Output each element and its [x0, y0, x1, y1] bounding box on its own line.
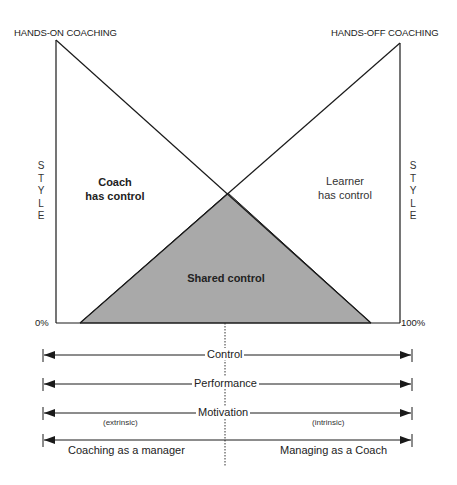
coach-label-line1: Coach [80, 175, 150, 189]
motivation-arrow-label: Motivation [196, 406, 250, 418]
shared-control-region [80, 193, 371, 323]
learner-label-line2: has control [310, 188, 380, 202]
coaching-as-manager-caption: Coaching as a manager [68, 444, 185, 456]
axis-min-label: 0% [35, 317, 49, 328]
learner-control-label: Learner has control [310, 174, 380, 202]
hands-on-label: HANDS-ON COACHING [14, 27, 117, 38]
coach-control-label: Coach has control [80, 175, 150, 203]
left-style-label: S T Y L E [36, 160, 46, 223]
axis-max-label: 100% [401, 317, 425, 328]
shared-control-label: Shared control [186, 271, 266, 285]
control-arrow-label: Control [205, 348, 244, 360]
learner-label-line1: Learner [310, 174, 380, 188]
intrinsic-note: (intrinsic) [312, 418, 344, 427]
extrinsic-note: (extrinsic) [103, 418, 138, 427]
performance-arrow-label: Performance [192, 377, 259, 389]
right-style-label: S T Y L E [408, 160, 418, 223]
managing-as-coach-caption: Managing as a Coach [280, 444, 387, 456]
hands-off-label: HANDS-OFF COACHING [331, 27, 438, 38]
coach-label-line2: has control [80, 189, 150, 203]
